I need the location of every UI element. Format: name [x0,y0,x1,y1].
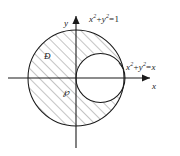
small-eq-rhs: x [151,62,155,72]
unit-circle-equation-label: x2+y2=1 [89,15,119,24]
figure-container: x2+y2=1 x2+y2=x y x Đ ℘ [0,0,180,156]
origin-label: ℘ [63,88,69,97]
small-circle-equation-label: x2+y2=x [126,63,156,72]
unit-eq-rhs: 1 [114,14,119,24]
x-axis-label: x [152,82,156,91]
region-d-label: Đ [44,52,51,61]
y-axis-label: y [64,19,68,28]
